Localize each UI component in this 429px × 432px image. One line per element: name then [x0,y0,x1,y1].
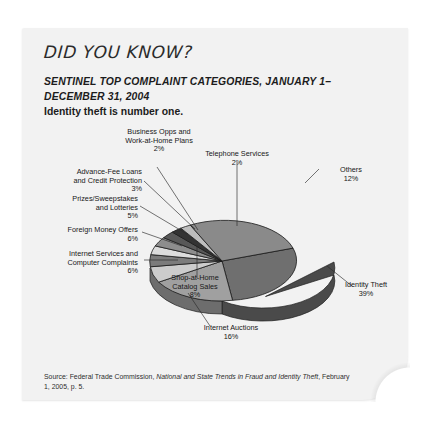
label-identity-theft-pct: 39% [332,290,400,299]
kicker-heading: DID YOU KNOW? [43,42,193,62]
label-internet-services: Internet Services andComputer Complaints… [24,250,138,276]
label-foreign-money: Foreign Money Offers 6% [26,226,138,243]
label-prizes-pct: 5% [26,212,138,221]
page-title: SENTINEL TOP COMPLAINT CATEGORIES, JANUA… [44,74,380,104]
label-telephone-services: Telephone Services 2% [194,150,280,167]
label-others-text: Others [340,165,362,174]
label-shop-at-home-pct: 8% [147,291,243,300]
label-internet-auctions-text: Internet Auctions [204,323,258,332]
pie-chart: Business Opps andWork-at-Home Plans 2% T… [22,126,408,366]
label-business-opps-text: Business Opps andWork-at-Home Plans [125,127,193,145]
label-prizes: Prizes/Sweepstakesand Lotteries 5% [26,195,138,221]
label-foreign-money-pct: 6% [26,235,138,244]
label-shop-at-home-text: Shop-at-HomeCatalog Sales [171,273,218,291]
label-internet-auctions: Internet Auctions 16% [182,324,280,341]
label-foreign-money-text: Foreign Money Offers [68,225,138,234]
label-advance-fee: Advance-Fee Loansand Credit Protection 3… [32,168,142,194]
label-shop-at-home: Shop-at-HomeCatalog Sales 8% [147,274,243,300]
label-telephone-services-text: Telephone Services [205,149,269,158]
label-prizes-text: Prizes/Sweepstakesand Lotteries [72,194,138,212]
subheading: Identity theft is number one. [44,105,374,119]
label-internet-services-pct: 6% [24,267,138,276]
label-identity-theft-text: Identity Theft [345,280,387,289]
label-others: Others 12% [327,166,375,183]
label-advance-fee-text: Advance-Fee Loansand Credit Protection [73,167,142,185]
source-title: National and State Trends in Fraud and I… [156,373,318,380]
source-citation: Source: Federal Trade Commission, Nation… [44,372,354,391]
label-advance-fee-pct: 3% [32,185,142,194]
label-internet-auctions-pct: 16% [182,333,280,342]
label-internet-services-text: Internet Services andComputer Complaints [67,249,138,267]
label-telephone-services-pct: 2% [194,159,280,168]
label-others-pct: 12% [327,175,375,184]
source-prefix: Source: Federal Trade Commission, [44,373,156,380]
label-identity-theft: Identity Theft 39% [332,281,400,298]
